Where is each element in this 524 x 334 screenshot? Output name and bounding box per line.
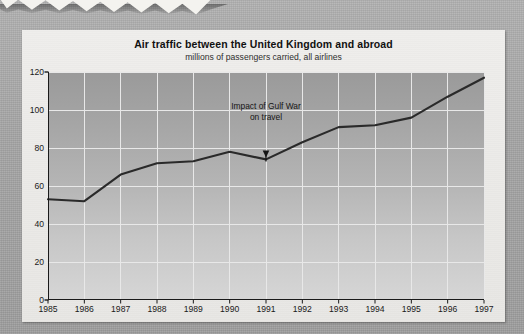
x-axis-tick-label: 1996: [438, 304, 457, 314]
torn-paper-scrap: February 1999: [0, 0, 228, 18]
y-axis-labels: 020406080100120: [20, 72, 44, 300]
chart-subtitle: millions of passengers carried, all airl…: [22, 52, 505, 62]
y-axis-tick-label: 20: [34, 257, 44, 267]
x-axis-tick-label: 1989: [184, 304, 203, 314]
x-axis-tick-label: 1985: [38, 304, 57, 314]
x-axis-tick-label: 1990: [220, 304, 239, 314]
x-axis-tick-label: 1995: [402, 304, 421, 314]
annotation-line-2: on travel: [250, 112, 282, 122]
y-axis-tick-label: 60: [34, 181, 44, 191]
y-axis-tick-label: 40: [34, 219, 44, 229]
x-axis-labels: 1985198619871988198919901991199219931994…: [48, 304, 484, 318]
chart-title: Air traffic between the United Kingdom a…: [22, 38, 505, 50]
y-axis-tick-label: 100: [30, 105, 44, 115]
x-axis-tick-label: 1993: [329, 304, 348, 314]
plot-wrapper: Impact of Gulf War on travel: [48, 72, 484, 300]
chart-card: Air traffic between the United Kingdom a…: [22, 30, 505, 322]
annotation-label: Impact of Gulf War on travel: [206, 101, 326, 122]
annotation-line-1: Impact of Gulf War: [231, 101, 301, 111]
x-axis-tick-label: 1988: [147, 304, 166, 314]
x-axis-tick-label: 1987: [111, 304, 130, 314]
y-axis-tick-label: 120: [30, 67, 44, 77]
x-axis-tick-label: 1992: [293, 304, 312, 314]
x-axis-tick-label: 1986: [75, 304, 94, 314]
y-axis-tick-label: 80: [34, 143, 44, 153]
x-axis-tick-label: 1997: [474, 304, 493, 314]
x-axis-tick-label: 1994: [365, 304, 384, 314]
x-axis-tick-label: 1991: [256, 304, 275, 314]
